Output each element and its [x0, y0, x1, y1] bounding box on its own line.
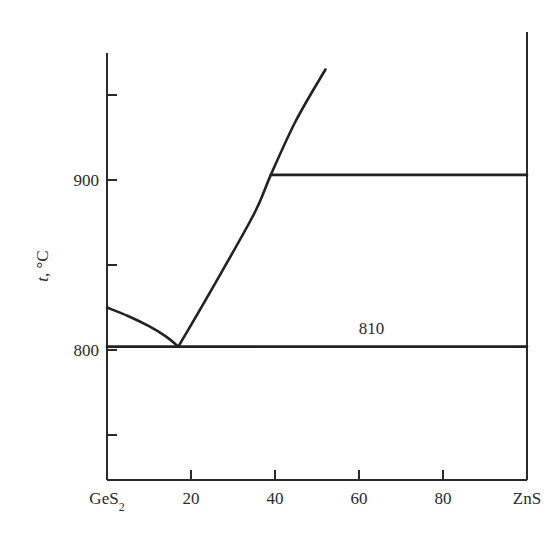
- y-axis-label: t, °C: [33, 250, 52, 281]
- liquidus-ZnS-side: [178, 70, 325, 347]
- x-tick-label: 60: [351, 489, 368, 508]
- annotation-label: 810: [359, 319, 385, 338]
- y-axis-label-unit: , °C: [33, 250, 52, 277]
- x-tick-label: ZnS: [513, 489, 541, 508]
- x-tick-label: 40: [267, 489, 284, 508]
- subscript: 2: [119, 500, 125, 514]
- labels: 800900GeS220406080ZnSt, °C810: [33, 171, 541, 514]
- axes: [107, 32, 527, 480]
- x-tick-label: GeS2: [89, 489, 124, 514]
- x-tick-label: 80: [435, 489, 452, 508]
- x-tick-label: 20: [183, 489, 200, 508]
- y-tick-label: 900: [74, 171, 100, 190]
- liquidus-GeS2-side: [107, 308, 178, 347]
- y-tick-label: 800: [74, 341, 100, 360]
- curves: [107, 70, 527, 347]
- phase-diagram: 800900GeS220406080ZnSt, °C810: [0, 0, 559, 536]
